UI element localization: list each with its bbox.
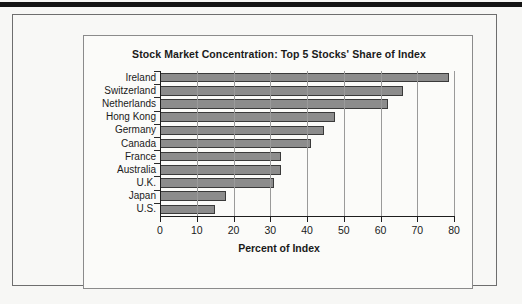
category-label-netherlands: Netherlands [82, 98, 156, 109]
x-axis-tick-40 [307, 217, 308, 222]
bar-u-s [160, 205, 215, 214]
x-axis-tick-label-40: 40 [292, 224, 322, 236]
bar-hong-kong [160, 112, 335, 121]
x-axis-tick-30 [270, 217, 271, 222]
category-axis-labels: IrelandSwitzerlandNetherlandsHong KongGe… [84, 71, 156, 216]
chart-title: Stock Market Concentration: Top 5 Stocks… [84, 48, 474, 60]
plot-area [160, 71, 454, 216]
bar-u-k [160, 178, 274, 187]
category-label-switzerland: Switzerland [82, 85, 156, 96]
x-axis-tick-label-0: 0 [145, 224, 175, 236]
x-axis-title: Percent of Index [84, 242, 474, 254]
figure-outer-frame: Stock Market Concentration: Top 5 Stocks… [12, 14, 497, 286]
category-label-u-k: U.K. [82, 177, 156, 188]
x-axis-tick-70 [417, 217, 418, 222]
top-rule-divider [0, 2, 522, 7]
chart-panel: Stock Market Concentration: Top 5 Stocks… [83, 35, 473, 289]
bar-ireland [160, 73, 449, 82]
bar-germany [160, 126, 324, 135]
x-axis-tick-label-70: 70 [402, 224, 432, 236]
x-axis-tick-label-60: 60 [366, 224, 396, 236]
category-label-hong-kong: Hong Kong [82, 111, 156, 122]
category-label-australia: Australia [82, 164, 156, 175]
category-label-france: France [82, 151, 156, 162]
x-axis-tick-60 [381, 217, 382, 222]
x-axis-tick-0 [160, 217, 161, 222]
gridline-30 [270, 71, 271, 216]
x-axis-tick-20 [234, 217, 235, 222]
gridline-70 [417, 71, 418, 216]
x-axis-tick-80 [454, 217, 455, 222]
bar-australia [160, 165, 281, 174]
category-label-canada: Canada [82, 138, 156, 149]
figure-page: Stock Market Concentration: Top 5 Stocks… [0, 0, 522, 304]
category-label-germany: Germany [82, 124, 156, 135]
gridline-50 [344, 71, 345, 216]
gridline-0 [160, 71, 161, 216]
gridline-40 [307, 71, 308, 216]
bar-canada [160, 139, 311, 148]
x-axis-tick-10 [197, 217, 198, 222]
x-axis-tick-label-10: 10 [182, 224, 212, 236]
x-axis-tick-label-30: 30 [255, 224, 285, 236]
category-label-ireland: Ireland [82, 72, 156, 83]
gridline-10 [197, 71, 198, 216]
x-axis-tick-label-80: 80 [439, 224, 469, 236]
x-axis-tick-label-50: 50 [329, 224, 359, 236]
gridline-20 [234, 71, 235, 216]
x-axis-tick-label-20: 20 [219, 224, 249, 236]
category-label-japan: Japan [82, 190, 156, 201]
x-axis-tick-50 [344, 217, 345, 222]
gridline-60 [381, 71, 382, 216]
gridline-80 [454, 71, 455, 216]
bar-netherlands [160, 99, 388, 108]
category-label-u-s: U.S. [82, 203, 156, 214]
bar-france [160, 152, 281, 161]
bar-japan [160, 191, 226, 200]
